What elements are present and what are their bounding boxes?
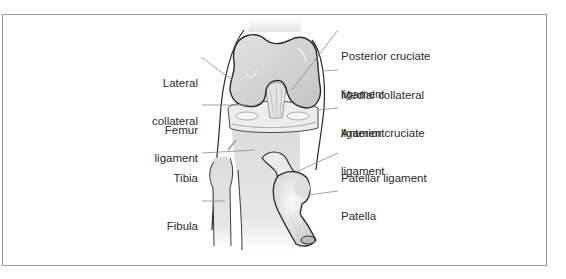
label-patella: Patella — [341, 185, 376, 235]
label-line: Patella — [341, 210, 376, 223]
label-line: Lateral — [152, 77, 198, 90]
label-line: Fibula — [167, 220, 198, 233]
leader-anterior-cruciate — [318, 108, 338, 110]
label-line: Anterior cruciate — [341, 127, 425, 140]
leader-medial-collateral — [322, 70, 338, 71]
label-line: Tibia — [174, 172, 199, 185]
label-line: Posterior cruciate — [341, 50, 430, 63]
label-tibia: Tibia — [174, 147, 199, 197]
label-line: Femur — [165, 124, 198, 137]
label-femur: Femur — [165, 99, 198, 149]
label-line: Medial collateral — [341, 89, 424, 102]
leader-patellar-ligament — [296, 153, 338, 172]
femur-shaft — [248, 18, 302, 32]
leader-patella — [308, 191, 338, 195]
knee-illustration — [0, 0, 566, 279]
label-line: Patellar ligament — [341, 172, 427, 185]
label-fibula: Fibula — [167, 195, 198, 245]
